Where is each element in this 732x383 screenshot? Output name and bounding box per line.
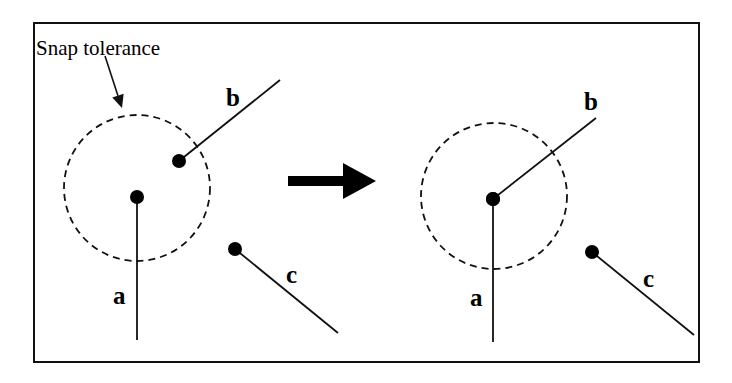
line-label-b: b <box>226 84 240 111</box>
diagram-canvas: Snap tolerance abc abc <box>0 0 732 383</box>
line-label-c: c <box>643 265 654 292</box>
snap-tolerance-diagram: Snap tolerance abc abc <box>0 0 732 383</box>
node-endpoint-a <box>130 190 144 204</box>
line-label-c: c <box>286 261 297 288</box>
line-label-b: b <box>584 88 598 115</box>
line-segment-b <box>493 118 596 199</box>
snapped-node <box>486 192 500 206</box>
caption-pointer-arrow <box>105 56 124 108</box>
node-endpoint-b <box>172 154 186 168</box>
line-label-a: a <box>113 282 126 309</box>
panel-after-snap: abc <box>421 88 694 342</box>
line-label-a: a <box>470 284 483 311</box>
line-c: c <box>228 242 338 333</box>
line-b: b <box>172 80 280 168</box>
node-endpoint-c <box>228 242 242 256</box>
snap-tolerance-caption: Snap tolerance <box>36 36 160 60</box>
transition-arrow <box>288 163 376 199</box>
node-endpoint-c <box>585 245 599 259</box>
panel-before-snap: abc <box>64 80 338 340</box>
line-a: a <box>113 190 144 340</box>
line-c: c <box>585 245 694 335</box>
